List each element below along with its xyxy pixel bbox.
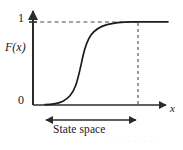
y-tick-label-zero: 0 — [18, 94, 24, 106]
y-axis-label: F(x) — [5, 41, 26, 53]
cdf-figure: 1 0 F(x) x State space · · · · · ·· · · — [0, 0, 183, 150]
y-tick-label-one: 1 — [18, 12, 24, 24]
x-axis-label: x — [170, 103, 175, 114]
state-space-label: State space — [53, 124, 106, 136]
caption-artifact-text: · · · · · ·· · · — [108, 138, 180, 146]
cdf-curve — [45, 22, 168, 105]
